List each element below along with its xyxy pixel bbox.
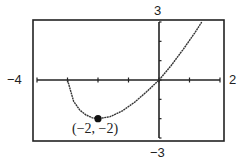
ymax-label: 3 [154,3,161,18]
xmin-label: −4 [7,72,22,87]
function-curve [68,22,202,119]
point-label: (−2, −2) [72,121,118,137]
ymin-label: −3 [150,145,165,160]
xmax-label: 2 [229,72,236,87]
graph-canvas [0,0,247,166]
axes [37,22,220,138]
